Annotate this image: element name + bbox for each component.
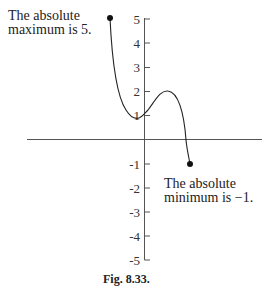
min-annotation: The absolute minimum is −1. — [164, 177, 253, 205]
max-endpoint-dot — [107, 15, 113, 21]
max-annotation: The absolute maximum is 5. — [8, 9, 92, 37]
max-annotation-line2: maximum is 5. — [8, 23, 92, 37]
min-annotation-line1: The absolute — [164, 177, 253, 191]
tick-label: 3 — [134, 60, 141, 75]
tick-label: -3 — [129, 205, 140, 220]
tick-label: -1 — [129, 157, 140, 172]
tick-label: -2 — [129, 181, 140, 196]
min-annotation-line2: minimum is −1. — [164, 191, 253, 205]
tick-label: 4 — [134, 36, 141, 51]
tick-label: 5 — [134, 12, 141, 27]
max-annotation-line1: The absolute — [8, 9, 92, 23]
tick-label: 2 — [134, 84, 141, 99]
tick-label: -5 — [129, 253, 140, 268]
tick-label: 1 — [134, 108, 141, 123]
min-endpoint-dot — [187, 161, 193, 167]
figure-caption: Fig. 8.33. — [103, 272, 150, 287]
tick-label: -4 — [129, 229, 140, 244]
chart-canvas: 5 4 3 2 1 -1 -2 -3 -4 -5 — [0, 0, 280, 295]
